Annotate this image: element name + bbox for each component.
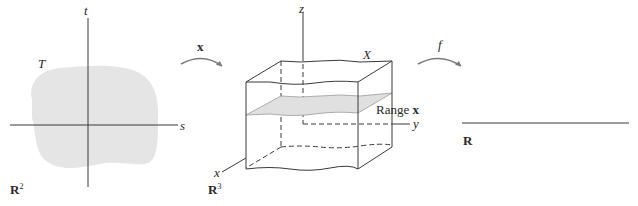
r3-base: R — [208, 182, 217, 197]
x-axis-label: x — [214, 166, 220, 179]
z-axis-label: z — [299, 2, 304, 15]
diagram-canvas — [0, 0, 638, 206]
box-x-label: X — [363, 48, 371, 61]
map-x-arrow — [181, 58, 222, 66]
r2-label: R2 — [10, 183, 23, 196]
r3-exponent: 3 — [217, 182, 221, 191]
range-x-label: Range x — [376, 103, 419, 116]
map-x-label: x — [197, 40, 204, 53]
r2-exponent: 2 — [19, 182, 23, 191]
r-label: R — [463, 134, 472, 147]
map-f-label: f — [438, 38, 442, 51]
y-axis-label: y — [413, 117, 419, 130]
range-x-bold: x — [412, 102, 419, 117]
t-axis-label: t — [84, 4, 88, 17]
r2-base: R — [10, 182, 19, 197]
parametrized-surface-diagram: t T s R2 x z X Range x y x R3 f R — [0, 0, 638, 206]
s-axis-label: s — [180, 119, 185, 132]
map-f-arrow — [418, 58, 461, 66]
region-t-label: T — [38, 57, 45, 70]
range-text: Range — [376, 102, 409, 117]
region-t — [31, 66, 158, 168]
r3-label: R3 — [208, 183, 221, 196]
box-x — [246, 56, 392, 170]
x-axis — [222, 158, 246, 172]
